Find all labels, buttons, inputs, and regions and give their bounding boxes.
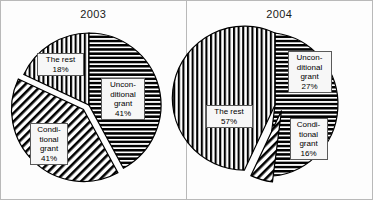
- pie-label-unconditional-2004: Uncon- ditional grant 27%: [288, 51, 332, 93]
- chart-panel-2003: 2003: [1, 1, 187, 199]
- pie-chart-figure: 2003: [0, 0, 373, 200]
- pie-label-conditional-2004: Condi- tional grant 16%: [290, 118, 328, 160]
- pie-label-conditional-2003: Condi- tional grant 41%: [30, 123, 68, 165]
- panel-title-2003: 2003: [1, 8, 186, 20]
- pie-slice-rest-2004: [172, 26, 275, 170]
- panel-title-2004: 2004: [187, 8, 373, 20]
- pie-2003-svg: [1, 23, 187, 199]
- pie-label-rest-2004: The rest 57%: [206, 105, 253, 128]
- chart-panel-2004: 2004: [187, 1, 373, 199]
- pie-label-rest-2003: The rest 18%: [37, 53, 84, 76]
- pie-label-unconditional-2003: Uncon- ditional grant 41%: [101, 78, 145, 120]
- pie-2003: [1, 23, 186, 199]
